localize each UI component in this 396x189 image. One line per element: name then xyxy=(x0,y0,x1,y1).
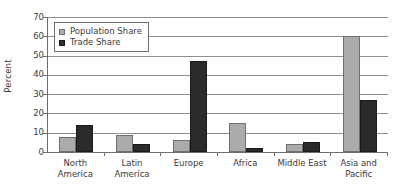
gridline xyxy=(48,75,388,76)
bar xyxy=(286,144,303,152)
y-axis-tick-label: 60 xyxy=(20,32,44,41)
bar xyxy=(343,36,360,152)
y-axis-tick-label: 70 xyxy=(20,13,44,22)
y-axis-title: Percent xyxy=(0,0,16,152)
y-axis-tick-label: 0 xyxy=(20,148,44,157)
bar xyxy=(229,123,246,152)
x-axis-label: Middle East xyxy=(274,158,331,169)
x-axis-label: Asia andPacific xyxy=(330,158,387,179)
bar xyxy=(190,61,207,152)
bar-group xyxy=(173,17,207,152)
legend-swatch-icon-population-share xyxy=(59,29,65,35)
bar xyxy=(173,140,190,152)
bar-group xyxy=(343,17,377,152)
y-axis-tick-label: 50 xyxy=(20,51,44,60)
x-axis-label: NorthAmerica xyxy=(47,158,104,179)
gridline xyxy=(48,133,388,134)
x-axis-label-line: America xyxy=(104,169,161,180)
legend-item-trade-share: Trade Share xyxy=(59,37,142,48)
gridline xyxy=(48,113,388,114)
gridline xyxy=(48,56,388,57)
bar xyxy=(133,144,150,152)
bar xyxy=(246,148,263,152)
x-axis-label-line: Africa xyxy=(217,158,274,169)
legend-swatch-icon-trade-share xyxy=(59,40,65,46)
legend-label-trade-share: Trade Share xyxy=(70,38,121,47)
bar-group xyxy=(286,17,320,152)
bar xyxy=(360,100,377,152)
x-axis-label: LatinAmerica xyxy=(104,158,161,179)
legend-item-population-share: Population Share xyxy=(59,26,142,37)
x-axis-tick-mark xyxy=(274,152,275,156)
x-axis-label: Europe xyxy=(160,158,217,169)
x-axis-label: Africa xyxy=(217,158,274,169)
legend-label-population-share: Population Share xyxy=(70,27,142,36)
y-axis-tick-label: 20 xyxy=(20,109,44,118)
chart-legend: Population Share Trade Share xyxy=(54,22,149,52)
x-axis-label-line: Pacific xyxy=(330,169,387,180)
bar xyxy=(303,142,320,152)
x-axis-tick-mark xyxy=(387,152,388,156)
x-axis-tick-mark xyxy=(217,152,218,156)
gridline xyxy=(48,17,388,18)
x-axis-label-line: North xyxy=(47,158,104,169)
y-axis-title-text: Percent xyxy=(3,59,13,92)
x-axis-label-line: Asia and xyxy=(330,158,387,169)
gridline xyxy=(48,94,388,95)
x-axis-label-line: America xyxy=(47,169,104,180)
bar xyxy=(116,135,133,152)
y-axis-tick-label: 10 xyxy=(20,128,44,137)
bar-group xyxy=(229,17,263,152)
x-axis-label-line: Europe xyxy=(160,158,217,169)
x-axis-label-line: Middle East xyxy=(274,158,331,169)
x-axis-tick-mark xyxy=(160,152,161,156)
y-axis-tick-label: 40 xyxy=(20,70,44,79)
x-axis-tick-mark xyxy=(330,152,331,156)
y-axis-tick-label: 30 xyxy=(20,90,44,99)
bar xyxy=(59,137,76,152)
x-axis-label-line: Latin xyxy=(104,158,161,169)
x-axis-tick-mark xyxy=(104,152,105,156)
bar-chart: Percent 010203040506070 NorthAmericaLati… xyxy=(0,0,396,189)
bar xyxy=(76,125,93,152)
